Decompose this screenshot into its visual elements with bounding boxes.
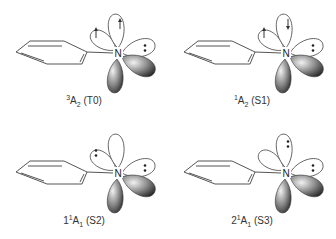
c-n-bond [255,172,281,173]
caption-term: A [70,95,77,106]
molecule-diagram: N [168,0,336,95]
benzene-ring [184,41,255,64]
state-caption: 1A2 (S1) [168,95,336,106]
orbital-right [122,159,155,177]
nitrogen-atom-label: N [282,48,289,59]
benzene-ring [16,161,87,184]
state-caption: 21A1 (S3) [168,215,336,226]
state-caption: 3A2 (T0) [0,95,168,106]
molecule-diagram: N [0,0,168,95]
orbital-lower-right-shaded [122,175,155,197]
benzene-ring [16,41,87,64]
caption-state: (S3) [251,215,273,226]
nitrogen-atom-label: N [114,168,121,179]
molecule-diagram: N [168,120,336,215]
orbital-lower-shaded [275,179,291,213]
orbital-lower-shaded [107,59,123,93]
c-n-bond [87,52,113,53]
orbital-right [290,39,323,57]
orbital-lower-shaded [275,59,291,93]
orbital-lower-right-shaded [290,55,323,77]
orbital-right [290,159,323,177]
state-caption: 11A1 (S2) [0,215,168,226]
orbital-lower-shaded [107,179,123,213]
orbital-right [122,39,155,57]
state-panel-s1: N 1A2 (S1) [168,0,336,119]
molecule-diagram: N [0,120,168,215]
caption-term: A [238,95,245,106]
nitrogen-atom-label: N [114,48,121,59]
state-panel-s2: N 11A1 (S2) [0,120,168,239]
c-n-bond [255,52,281,53]
c-n-bond [87,172,113,173]
caption-state: (S2) [83,215,105,226]
state-panel-t0: N 3A2 (T0) [0,0,168,119]
state-panel-s3: N 21A1 (S3) [168,120,336,239]
nitrogen-atom-label: N [282,168,289,179]
benzene-ring [184,161,255,184]
caption-state: (T0) [81,95,102,106]
caption-state: (S1) [248,95,270,106]
orbital-lower-right-shaded [122,55,155,77]
orbital-lower-right-shaded [290,175,323,197]
